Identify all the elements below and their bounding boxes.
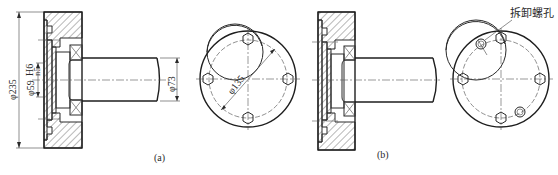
mechanical-drawing (0, 0, 558, 175)
dim-shaft-diameter: φ73 (167, 76, 177, 92)
dim-outer-diameter: φ235 (8, 79, 18, 100)
view-b-section (312, 12, 440, 150)
dim-fit-shaft-tolerance: n5 (33, 67, 42, 76)
view-b-end (446, 20, 553, 130)
dim-fit-diameter: φ59 (26, 80, 36, 96)
caption-a: (a) (154, 153, 165, 163)
view-a-section (16, 12, 180, 148)
callout-extraction-holes: 拆卸螺孔 (510, 8, 554, 19)
view-a-end (196, 24, 300, 130)
caption-b: (b) (377, 150, 389, 160)
